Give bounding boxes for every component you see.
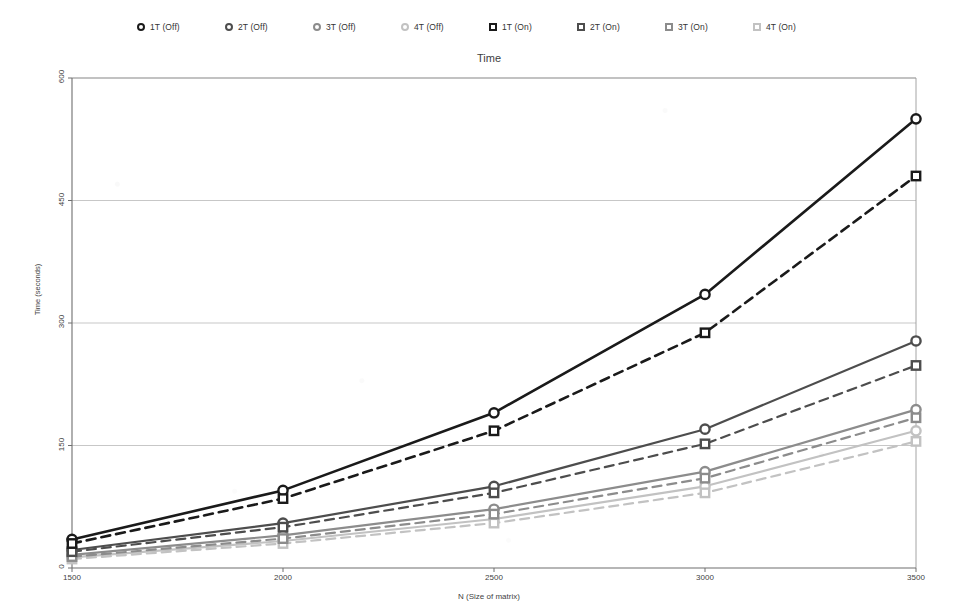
data-point-square-marker <box>912 172 920 180</box>
data-point-circle-marker <box>700 425 709 434</box>
legend-item-2t-off[interactable]: 2T (Off) <box>225 22 313 32</box>
data-point-square-marker <box>912 414 920 422</box>
legend-item-2t-on[interactable]: 2T (On) <box>577 22 665 32</box>
legend-label: 2T (Off) <box>238 22 268 32</box>
data-point-square-marker <box>701 329 709 337</box>
square-marker-icon <box>489 23 497 31</box>
series-line <box>72 119 916 540</box>
legend-item-4t-off[interactable]: 4T (Off) <box>401 22 489 32</box>
square-marker-icon <box>665 23 673 31</box>
data-point-square-marker <box>701 440 709 448</box>
legend-label: 1T (Off) <box>150 22 180 32</box>
legend-label: 4T (On) <box>766 22 796 32</box>
x-tick-label: 1500 <box>42 573 102 582</box>
data-point-square-marker <box>490 510 498 518</box>
legend-item-1t-on[interactable]: 1T (On) <box>489 22 577 32</box>
data-point-circle-marker <box>911 336 920 345</box>
y-tick-label: 600 <box>57 60 66 94</box>
legend-item-4t-on[interactable]: 4T (On) <box>753 22 841 32</box>
data-point-square-marker <box>279 534 287 542</box>
data-point-circle-marker <box>489 408 498 417</box>
legend-item-3t-off[interactable]: 3T (Off) <box>313 22 401 32</box>
y-axis-title: Time (seconds) <box>33 264 42 315</box>
data-point-square-marker <box>912 361 920 369</box>
x-tick-label: 3500 <box>886 573 946 582</box>
data-point-square-marker <box>68 539 76 547</box>
data-point-square-marker <box>279 494 287 502</box>
data-point-square-marker <box>701 489 709 497</box>
data-point-square-marker <box>490 427 498 435</box>
x-tick-label: 2000 <box>253 573 313 582</box>
legend-label: 3T (On) <box>678 22 708 32</box>
data-point-square-marker <box>490 519 498 527</box>
data-point-square-marker <box>279 523 287 531</box>
series-1t-off <box>67 114 920 544</box>
legend-label: 4T (Off) <box>414 22 444 32</box>
legend-label: 2T (On) <box>590 22 620 32</box>
circle-marker-icon <box>313 23 321 31</box>
legend-label: 1T (On) <box>502 22 532 32</box>
plot-area <box>0 0 978 614</box>
data-point-circle-marker <box>700 290 709 299</box>
circle-marker-icon <box>137 23 145 31</box>
data-point-square-marker <box>701 474 709 482</box>
y-tick-label: 150 <box>57 427 66 461</box>
chart-legend: 1T (Off)2T (Off)3T (Off)4T (Off)1T (On)2… <box>0 22 978 32</box>
circle-marker-icon <box>225 23 233 31</box>
legend-item-1t-off[interactable]: 1T (Off) <box>137 22 225 32</box>
y-tick-label: 300 <box>57 305 66 339</box>
legend-label: 3T (Off) <box>326 22 356 32</box>
y-tick-label: 450 <box>57 182 66 216</box>
circle-marker-icon <box>401 23 409 31</box>
chart-container: 1T (Off)2T (Off)3T (Off)4T (Off)1T (On)2… <box>0 0 978 614</box>
data-point-square-marker <box>490 489 498 497</box>
data-point-square-marker <box>912 437 920 445</box>
chart-title: Time <box>0 52 978 64</box>
data-point-circle-marker <box>911 426 920 435</box>
series-line <box>72 441 916 559</box>
square-marker-icon <box>753 23 761 31</box>
square-marker-icon <box>577 23 585 31</box>
legend-item-3t-on[interactable]: 3T (On) <box>665 22 753 32</box>
data-point-circle-marker <box>911 114 920 123</box>
x-axis-title: N (Size of matrix) <box>0 592 978 601</box>
x-tick-label: 3000 <box>675 573 735 582</box>
x-tick-label: 2500 <box>464 573 524 582</box>
